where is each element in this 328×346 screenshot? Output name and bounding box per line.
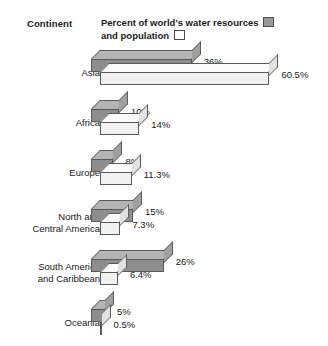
bar-top-face <box>91 250 173 259</box>
bar-value-population: 6.4% <box>130 269 152 280</box>
bar-value-water-resources: 26% <box>176 256 195 267</box>
chart-group: Europe8%11.3% <box>0 150 328 200</box>
category-label: Africa <box>2 117 100 129</box>
bar-front-face <box>100 122 139 135</box>
bar-value-water-resources: 15% <box>145 206 164 217</box>
chart-legend: Percent of world's water resources and p… <box>101 17 326 42</box>
water-resources-swatch-icon <box>263 17 274 27</box>
legend-item-population: and population <box>101 30 326 43</box>
bar-population <box>100 63 269 76</box>
category-label-line1: Europe <box>2 167 100 179</box>
bar-value-population: 7.3% <box>132 219 154 230</box>
category-label: South Americaand Caribbean <box>2 261 100 284</box>
bar-value-population: 0.5% <box>114 319 136 330</box>
category-label-line2: and Caribbean <box>2 273 100 285</box>
legend-label-water-resources: Percent of world's water resources <box>101 17 258 28</box>
bar-water-resources <box>91 250 164 263</box>
legend-label-population: and population <box>101 30 169 41</box>
bar-population <box>100 313 102 326</box>
category-label-line1: North and <box>2 211 100 223</box>
category-label-line1: Asia <box>2 67 100 79</box>
chart-plot-area: Asia36%60.5%Africa10%14%Europe8%11.3%Nor… <box>0 46 328 346</box>
bar-water-resources <box>91 50 192 63</box>
category-label: Europe <box>2 167 100 179</box>
bar-population <box>100 113 139 126</box>
chart-group: Africa10%14% <box>0 100 328 150</box>
chart-group: Oceania5%0.5% <box>0 300 328 346</box>
category-label-line1: South America <box>2 261 100 273</box>
bar-end-cap <box>269 54 278 76</box>
chart-group: Asia36%60.5% <box>0 50 328 100</box>
legend-item-water-resources: Percent of world's water resources <box>101 17 326 30</box>
bar-top-face <box>100 63 278 72</box>
category-label-line1: Oceania <box>2 317 100 329</box>
bar-value-population: 60.5% <box>281 69 308 80</box>
population-swatch-icon <box>174 30 185 40</box>
bar-population <box>100 263 118 276</box>
category-label-line2: Central America <box>2 223 100 235</box>
bar-value-water-resources: 5% <box>117 306 131 317</box>
bar-water-resources <box>91 150 113 163</box>
bar-population <box>100 163 132 176</box>
continent-column-header: Continent <box>27 18 72 29</box>
bar-top-face <box>91 50 201 59</box>
bar-population <box>100 213 120 226</box>
bar-value-population: 14% <box>151 119 170 130</box>
category-label: Asia <box>2 67 100 79</box>
chart-group: South Americaand Caribbean26%6.4% <box>0 250 328 300</box>
bar-front-face <box>100 222 120 235</box>
chart-header: Continent Percent of world's water resou… <box>0 0 328 48</box>
bar-front-face <box>100 272 118 285</box>
category-label-line1: Africa <box>2 117 100 129</box>
bar-front-face <box>100 172 132 185</box>
category-label: North andCentral America <box>2 211 100 234</box>
bar-water-resources <box>91 100 119 113</box>
category-label: Oceania <box>2 317 100 329</box>
bar-front-face <box>100 72 269 85</box>
bar-value-population: 11.3% <box>144 169 170 180</box>
chart-group: North andCentral America15%7.3% <box>0 200 328 250</box>
